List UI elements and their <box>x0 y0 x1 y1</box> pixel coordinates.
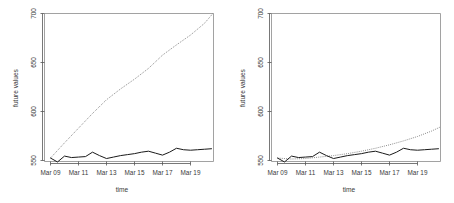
plot-right: 700 650 600 550 future values Mar 09 Mar… <box>227 0 454 203</box>
x-tick-label: Mar 11 <box>296 169 316 176</box>
x-tick-label: Mar 11 <box>69 169 89 176</box>
y-tick-label: 600 <box>257 106 264 117</box>
x-axis-title: time <box>343 186 356 193</box>
figure-two-panel-forecast: 700 650 600 550 future values Mar 09 Mar… <box>0 0 454 203</box>
y-axis-title: future values <box>12 68 19 106</box>
x-tick-label: Mar 15 <box>352 169 372 176</box>
y-tick-label: 600 <box>30 106 37 117</box>
plot-left: 700 650 600 550 future values Mar 09 Mar… <box>0 0 227 203</box>
x-tick-label: Mar 09 <box>268 169 288 176</box>
x-tick-label: Mar 17 <box>153 169 173 176</box>
x-tick-label: Mar 19 <box>408 169 428 176</box>
y-tick-label: 650 <box>257 57 264 68</box>
x-tick-label: Mar 13 <box>324 169 344 176</box>
x-tick-label: Mar 15 <box>125 169 145 176</box>
x-tick-label: Mar 13 <box>97 169 117 176</box>
y-tick-label: 550 <box>257 155 264 166</box>
y-tick-label: 650 <box>30 57 37 68</box>
x-tick-label: Mar 09 <box>41 169 61 176</box>
y-tick-label: 550 <box>30 155 37 166</box>
y-tick-label: 700 <box>257 8 264 19</box>
panel-right: 700 650 600 550 future values Mar 09 Mar… <box>227 0 454 203</box>
panel-left: 700 650 600 550 future values Mar 09 Mar… <box>0 0 227 203</box>
x-tick-label: Mar 19 <box>181 169 201 176</box>
x-tick-label: Mar 17 <box>380 169 400 176</box>
x-axis-title: time <box>116 186 129 193</box>
y-axis-title: future values <box>239 68 246 106</box>
y-tick-label: 700 <box>30 8 37 19</box>
